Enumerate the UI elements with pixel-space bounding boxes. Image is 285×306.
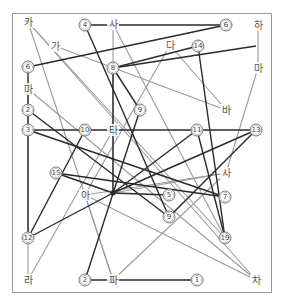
gray-edge [85, 173, 226, 195]
number-node: 19 [219, 232, 231, 244]
number-node: 6 [220, 19, 232, 31]
number-node: 14 [192, 40, 204, 52]
hangul-node-label: 다 [166, 40, 175, 51]
number-node-label: 3 [26, 126, 30, 134]
number-node-label: 6 [224, 21, 229, 29]
number-node-label: 4 [83, 21, 88, 29]
number-node: 4 [79, 19, 91, 31]
number-node: 8 [107, 62, 119, 74]
number-node-label: 11 [193, 126, 202, 134]
dark-edge [113, 193, 169, 195]
number-node-label: 7 [223, 193, 227, 201]
number-node: 10 [79, 124, 91, 136]
number-node-label: 10 [81, 126, 90, 134]
dark-edge [113, 68, 140, 110]
hub-point [111, 191, 116, 196]
number-node: 1 [191, 274, 203, 286]
hangul-node-label: 타 [109, 125, 118, 136]
number-node-label: 9 [138, 106, 142, 114]
number-node: 9 [163, 211, 175, 223]
hangul-node-label: 사 [222, 168, 231, 179]
number-node-label: 5 [167, 191, 171, 199]
hangul-node-label: 차 [252, 275, 261, 286]
number-node-label: 6 [26, 63, 31, 71]
number-node: 13 [250, 124, 262, 136]
number-node-label: 9 [167, 213, 171, 221]
number-node-label: 15 [52, 169, 61, 177]
dark-edge [28, 130, 85, 238]
number-node: 9 [134, 104, 146, 116]
dark-edge [169, 130, 256, 217]
number-node: 5 [163, 189, 175, 201]
number-node-label: 12 [24, 234, 33, 242]
gray-edge [113, 24, 225, 238]
hangul-node-label: 가 [51, 41, 60, 52]
hangul-node-label: 사 [109, 19, 118, 30]
hangul-node-label: 카 [24, 17, 33, 28]
number-node-label: 19 [221, 234, 230, 242]
hangul-node-label: 파 [109, 275, 118, 286]
number-node: 3 [22, 124, 34, 136]
number-node-label: 14 [194, 42, 203, 50]
connection-diagram: 46681429310111315579121921카사하가다마마바타아사라파차 [0, 0, 285, 306]
gray-edge [28, 89, 256, 280]
hangul-node-label: 하 [254, 19, 263, 31]
number-node-label: 13 [252, 126, 261, 134]
number-node: 7 [219, 191, 231, 203]
number-node: 6 [22, 61, 34, 73]
dark-edge [198, 46, 225, 238]
hangul-node-label: 아 [81, 190, 90, 201]
number-node-label: 1 [195, 276, 199, 284]
number-node: 2 [79, 274, 91, 286]
hangul-node-label: 마 [254, 63, 263, 74]
number-node: 12 [22, 232, 34, 244]
gray-edge [226, 68, 258, 173]
number-node-label: 8 [111, 64, 115, 72]
hangul-node-label: 라 [24, 275, 33, 286]
number-node-label: 2 [26, 106, 30, 114]
number-node: 11 [191, 124, 203, 136]
number-node-label: 2 [83, 276, 87, 284]
number-node: 2 [22, 104, 34, 116]
hangul-node-label: 바 [222, 105, 231, 116]
hangul-node-label: 마 [24, 84, 33, 95]
number-node: 15 [50, 167, 62, 179]
